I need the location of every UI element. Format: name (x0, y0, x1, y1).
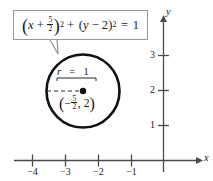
y-tick-label-3: 3 (143, 49, 155, 60)
equation-minus-operator: − (92, 18, 99, 33)
radius-equals-sign: = (69, 66, 75, 77)
callout-leader-line (50, 40, 58, 54)
fraction-denominator: 2 (47, 25, 53, 33)
y-axis-label: y (166, 6, 171, 17)
equation-variable-x: x (28, 18, 34, 33)
radius-variable: r (57, 66, 61, 77)
center-comma: , (78, 97, 81, 109)
equation-callout-box: ( x + 5 2 ) 2 + ( y − 2 ) 2 = (13, 10, 148, 40)
equation-middle-plus: + (67, 18, 74, 33)
center-point-dot (80, 88, 86, 94)
center-coordinate-label: ( − 5 2 , 2 ) (59, 95, 95, 111)
x-tick-label-neg3: −3 (57, 166, 75, 177)
circle-equation: ( x + 5 2 ) 2 + ( y − 2 ) 2 = (14, 11, 147, 39)
x-axis-arrow (196, 157, 203, 164)
fraction-numerator: 5 (47, 16, 53, 24)
y-tick-label-1: 1 (143, 119, 155, 130)
center-fraction-numerator: 5 (71, 95, 77, 103)
equation-fraction-five-halves: 5 2 (47, 16, 53, 32)
x-axis-label: x (204, 152, 209, 163)
radius-label: r = 1 (57, 66, 89, 77)
x-axis (14, 155, 203, 167)
center-x-negative-sign: − (64, 97, 71, 109)
circle-equation-figure: ( x + 5 2 ) 2 + ( y − 2 ) 2 = (0, 0, 213, 181)
y-axis (158, 15, 169, 172)
x-tick-label-neg4: −4 (24, 166, 42, 177)
center-fraction-denominator: 2 (71, 103, 77, 111)
x-tick-label-neg1: −1 (123, 166, 141, 177)
equation-right-hand-side: 1 (133, 18, 139, 33)
radius-value: 1 (84, 66, 89, 77)
x-tick-label-neg2: −2 (90, 166, 108, 177)
equation-variable-y: y (83, 18, 89, 33)
center-x-fraction: 5 2 (71, 95, 77, 111)
equation-equals-sign: = (121, 18, 128, 33)
equation-plus-operator: + (37, 18, 44, 33)
y-tick-label-2: 2 (143, 84, 155, 95)
radius-measure-bracket (57, 78, 96, 81)
